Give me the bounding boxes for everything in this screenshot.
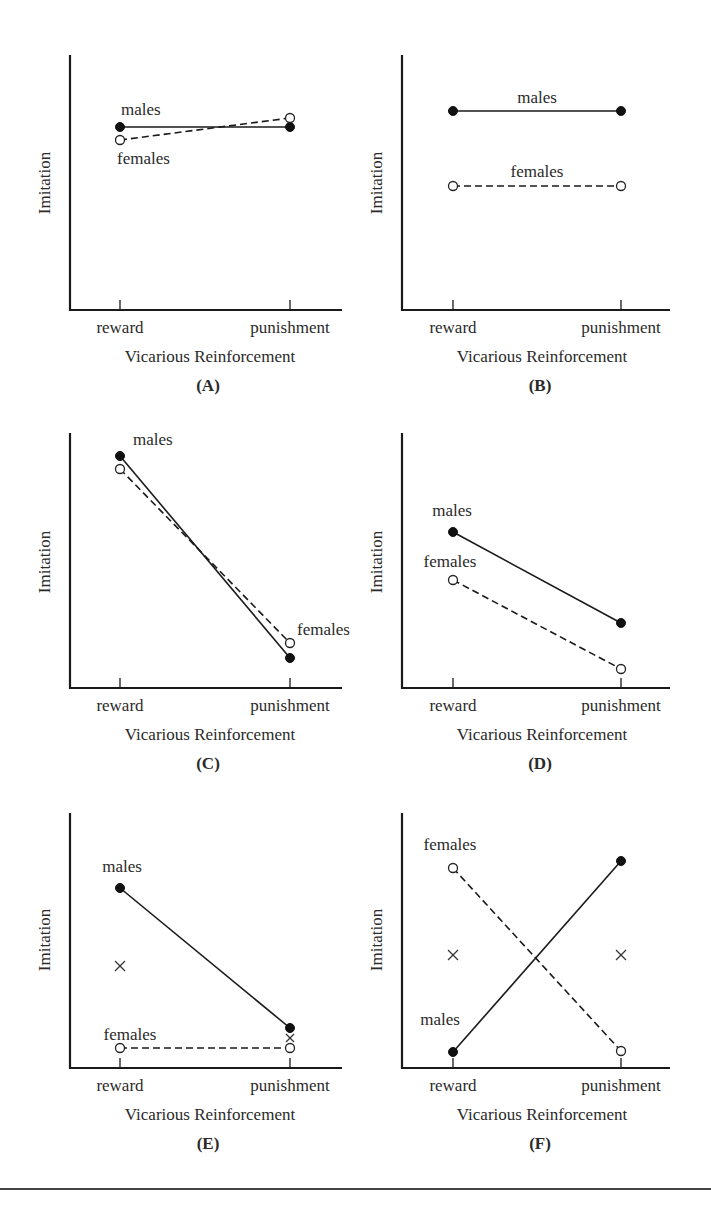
panel-d: males females reward punishment Vicariou… — [367, 433, 670, 773]
panel-b-males-label: males — [517, 88, 557, 107]
panel-d-males-label: males — [432, 501, 472, 520]
panel-e-label: (E) — [197, 1134, 220, 1153]
panel-f-tick-label-punishment: punishment — [581, 1076, 661, 1095]
panel-a-axes — [70, 55, 342, 310]
panel-e-females-reward-marker — [116, 1044, 125, 1053]
panel-b-females-label: females — [511, 162, 564, 181]
panel-e-x-axis-title: Vicarious Reinforcement — [125, 1105, 296, 1124]
panel-e-males-reward-marker — [116, 884, 125, 893]
panel-f-label: (F) — [529, 1134, 551, 1153]
panel-f-females-punishment-marker — [617, 1047, 626, 1056]
panel-e-cross-icon-reward — [115, 961, 125, 971]
panel-f-x-axis-title: Vicarious Reinforcement — [457, 1105, 628, 1124]
panel-e-y-axis-title: Imitation — [35, 908, 54, 971]
figure-canvas: males females reward punishment Vicariou… — [0, 0, 711, 1210]
panel-c-label: (C) — [196, 754, 220, 773]
panel-a-males-label: males — [121, 100, 161, 119]
panel-c-y-axis-title: Imitation — [35, 530, 54, 593]
panel-c-females-line — [120, 469, 290, 643]
panel-d-tick-label-punishment: punishment — [581, 696, 661, 715]
panel-c-females-punishment-marker — [286, 639, 295, 648]
panel-f-y-axis-title: Imitation — [367, 908, 386, 971]
panel-a-males-punishment-marker — [286, 123, 295, 132]
panel-d-y-axis-title: Imitation — [367, 530, 386, 593]
panel-f: females males reward punishment Vicariou… — [367, 813, 670, 1153]
panel-a-females-reward-marker — [116, 136, 125, 145]
panel-b-females-reward-marker — [449, 182, 458, 191]
panel-d-females-line — [453, 580, 621, 669]
panel-a-label: (A) — [196, 376, 220, 395]
panel-a-females-line — [120, 118, 290, 140]
panel-d-males-reward-marker — [449, 528, 458, 537]
panel-e-cross-icon-punishment — [286, 1034, 294, 1042]
panel-c-tick-label-reward: reward — [96, 696, 144, 715]
panel-d-females-punishment-marker — [617, 665, 626, 674]
panel-b-x-axis-title: Vicarious Reinforcement — [457, 347, 628, 366]
panel-c-x-axis-title: Vicarious Reinforcement — [125, 725, 296, 744]
panel-b-y-axis-title: Imitation — [367, 151, 386, 214]
panel-d-tick-label-reward: reward — [429, 696, 477, 715]
panel-c-axes — [70, 433, 342, 688]
panel-b-females-punishment-marker — [617, 182, 626, 191]
panel-d-males-line — [453, 532, 621, 623]
panel-f-females-reward-marker — [449, 864, 458, 873]
panel-b-tick-label-punishment: punishment — [581, 318, 661, 337]
panel-a-males-reward-marker — [116, 123, 125, 132]
panel-b-males-reward-marker — [449, 107, 458, 116]
panel-a-females-label: females — [117, 149, 170, 168]
panel-a-x-axis-title: Vicarious Reinforcement — [125, 347, 296, 366]
panel-d-males-punishment-marker — [617, 619, 626, 628]
panel-c-males-label: males — [133, 430, 173, 449]
panel-f-males-reward-marker — [449, 1048, 458, 1057]
panel-c-males-punishment-marker — [286, 654, 295, 663]
panel-b-males-punishment-marker — [617, 107, 626, 116]
panel-f-females-label: females — [424, 835, 477, 854]
panel-b-tick-label-reward: reward — [429, 318, 477, 337]
panel-c-females-label: females — [297, 620, 350, 639]
panel-f-males-label: males — [420, 1010, 460, 1029]
panel-f-cross-icon-punishment — [616, 950, 626, 960]
panel-f-males-punishment-marker — [617, 857, 626, 866]
panel-e-females-punishment-marker — [286, 1044, 295, 1053]
panel-e: males females reward punishment Vicariou… — [35, 813, 342, 1153]
panel-d-females-label: females — [424, 552, 477, 571]
panel-d-females-reward-marker — [449, 576, 458, 585]
panel-b-label: (B) — [529, 376, 552, 395]
panel-e-males-line — [120, 888, 290, 1028]
panel-a-females-punishment-marker — [286, 114, 295, 123]
panel-c-males-reward-marker — [116, 452, 125, 461]
panel-b: males females reward punishment Vicariou… — [367, 55, 670, 395]
panel-a: males females reward punishment Vicariou… — [35, 55, 342, 395]
panel-f-tick-label-reward: reward — [429, 1076, 477, 1095]
panel-c-females-reward-marker — [116, 465, 125, 474]
panel-f-cross-icon-reward — [448, 950, 458, 960]
panel-e-tick-label-reward: reward — [96, 1076, 144, 1095]
panel-c-tick-label-punishment: punishment — [250, 696, 330, 715]
panel-a-tick-label-punishment: punishment — [250, 318, 330, 337]
panel-d-x-axis-title: Vicarious Reinforcement — [457, 725, 628, 744]
panel-c: males females reward punishment Vicariou… — [35, 430, 350, 773]
panel-a-tick-label-reward: reward — [96, 318, 144, 337]
panel-e-tick-label-punishment: punishment — [250, 1076, 330, 1095]
panel-d-label: (D) — [528, 754, 552, 773]
panel-e-males-label: males — [102, 857, 142, 876]
panel-e-females-label: females — [104, 1025, 157, 1044]
panel-a-y-axis-title: Imitation — [35, 151, 54, 214]
panel-e-males-punishment-marker — [286, 1024, 295, 1033]
